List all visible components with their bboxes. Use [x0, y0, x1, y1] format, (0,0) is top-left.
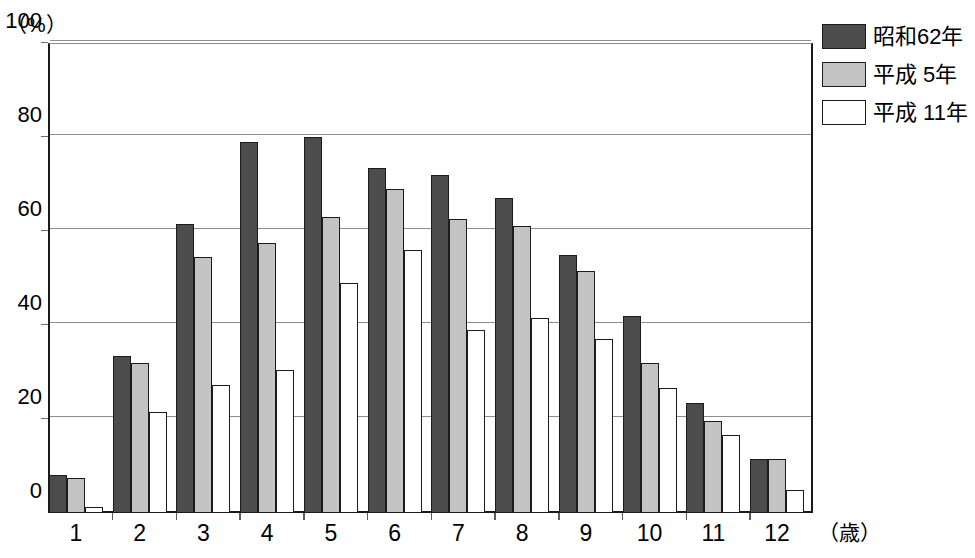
- bar: [577, 271, 595, 513]
- x-axis-labels: 123456789101112: [48, 518, 813, 554]
- bar: [113, 356, 131, 513]
- bar-group: [494, 43, 558, 513]
- bar-group: [303, 43, 367, 513]
- bar: [49, 475, 67, 513]
- y-axis-tick-label: 100: [0, 10, 42, 32]
- bar: [258, 243, 276, 513]
- x-axis-tick-label: 5: [324, 518, 337, 548]
- y-axis-labels: 020406080100: [0, 43, 42, 513]
- bar: [340, 283, 358, 513]
- x-axis-tick-label: 2: [133, 518, 146, 548]
- x-axis-tick-label: 12: [764, 518, 790, 548]
- x-axis-tick-label: 8: [516, 518, 529, 548]
- bar: [386, 189, 404, 513]
- bar-group: [431, 43, 495, 513]
- bar: [467, 330, 485, 513]
- bar-group: [176, 43, 240, 513]
- y-axis-tick-label: 80: [0, 104, 42, 126]
- y-axis-tick-mark: [41, 230, 48, 231]
- y-axis-tick-mark: [41, 324, 48, 325]
- legend-item-label: 平成 11年: [873, 100, 968, 125]
- bar: [659, 388, 677, 513]
- bar-group: [558, 43, 622, 513]
- legend-item-label: 昭和62年: [873, 24, 963, 49]
- bar: [595, 339, 613, 513]
- bar-group: [367, 43, 431, 513]
- white-swatch: [822, 100, 866, 125]
- bar-group: [686, 43, 750, 513]
- bar-group: [749, 43, 813, 513]
- bar: [131, 363, 149, 513]
- x-axis-tick-label: 6: [388, 518, 401, 548]
- x-axis-tick-label: 1: [69, 518, 82, 548]
- dark-swatch: [822, 24, 866, 49]
- x-axis-unit-label: （歳）: [818, 518, 881, 548]
- x-axis-tick-label: 4: [261, 518, 274, 548]
- y-axis-tick-label: 20: [0, 386, 42, 408]
- bar: [176, 224, 194, 513]
- bar-group: [239, 43, 303, 513]
- y-axis-tick-label: 60: [0, 198, 42, 220]
- bar: [513, 226, 531, 513]
- bar: [240, 142, 258, 513]
- bar-group: [48, 43, 112, 513]
- bar: [449, 219, 467, 513]
- bar: [495, 198, 513, 513]
- y-axis-tick-label: 40: [0, 292, 42, 314]
- legend-item-label: 平成 5年: [873, 62, 957, 87]
- bar: [750, 459, 768, 513]
- bar: [149, 412, 167, 513]
- chart-legend: 昭和62年平成 5年平成 11年: [822, 22, 972, 136]
- x-axis-tick-label: 11: [701, 518, 725, 548]
- y-axis-tick-mark: [41, 418, 48, 419]
- bar: [322, 217, 340, 513]
- bar-group: [622, 43, 686, 513]
- bar: [368, 168, 386, 513]
- bar: [67, 478, 85, 513]
- bar-chart: （%） 020406080100 123456789101112 （歳） 昭和6…: [0, 0, 975, 558]
- x-axis-tick-label: 7: [452, 518, 465, 548]
- bar: [531, 318, 549, 513]
- x-axis-tick-label: 3: [197, 518, 210, 548]
- bar: [431, 175, 449, 513]
- bar-group: [112, 43, 176, 513]
- y-axis-tick-mark: [41, 42, 48, 43]
- bar: [768, 459, 786, 513]
- bar: [212, 385, 230, 513]
- gray-swatch: [822, 62, 866, 87]
- legend-item: 昭和62年: [822, 22, 972, 51]
- x-axis-tick-label: 9: [579, 518, 592, 548]
- bar: [404, 250, 422, 513]
- y-axis-tick-label: 0: [0, 480, 42, 502]
- legend-item: 平成 11年: [822, 98, 972, 127]
- bar-series-layer: [48, 43, 813, 513]
- bar: [686, 403, 704, 513]
- bar: [704, 421, 722, 513]
- bar: [304, 137, 322, 513]
- bar: [641, 363, 659, 513]
- legend-item: 平成 5年: [822, 60, 972, 89]
- bar: [623, 316, 641, 513]
- gridline: [50, 40, 811, 41]
- bar: [559, 255, 577, 514]
- bar: [276, 370, 294, 513]
- bar: [722, 435, 740, 513]
- x-axis-tick-label: 10: [637, 518, 663, 548]
- y-axis-tick-mark: [41, 136, 48, 137]
- bar: [194, 257, 212, 513]
- bar: [786, 490, 804, 514]
